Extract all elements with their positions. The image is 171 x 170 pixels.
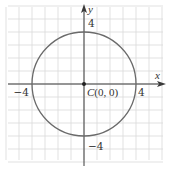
- x-axis-label: x: [154, 69, 160, 81]
- y-tick-label-neg4: −4: [88, 140, 104, 152]
- center-point: [82, 82, 86, 86]
- y-tick-label-4: 4: [88, 17, 95, 29]
- center-label: C(0, 0): [87, 86, 119, 99]
- coordinate-plane: x y −4 4 4 −4 C(0, 0): [0, 0, 171, 170]
- x-tick-label-neg4: −4: [14, 86, 30, 98]
- y-axis-label: y: [87, 3, 93, 15]
- center-coords: (0, 0): [94, 86, 118, 99]
- x-tick-label-4: 4: [138, 86, 145, 98]
